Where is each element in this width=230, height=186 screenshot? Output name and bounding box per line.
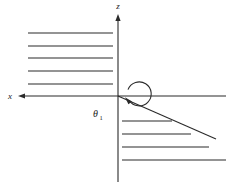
vertical-axis-label: z [115,1,120,11]
figure-container: z x θ 1 [0,0,230,186]
angle-label-group: θ 1 [93,108,103,121]
angle-label: θ [93,108,98,119]
vertical-axis-arrowhead [115,14,120,21]
refraction-diagram: z x θ 1 [0,0,230,186]
refracted-wavefront-group [122,121,226,160]
horizontal-axis-arrowhead [18,93,25,98]
angle-label-subscript: 1 [100,114,103,121]
refracted-ray-line [118,96,216,139]
horizontal-axis-label: x [7,91,12,101]
incident-wavefront-group [28,33,113,84]
